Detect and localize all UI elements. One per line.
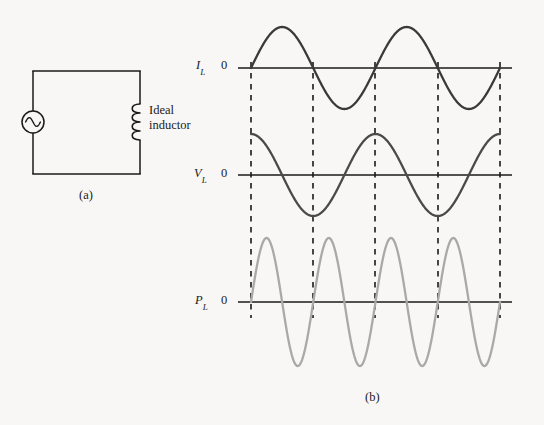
- voltage-symbol: V: [194, 166, 202, 180]
- power-symbol: P: [195, 293, 203, 307]
- inductor-label-line-1: Ideal: [149, 103, 191, 118]
- inductor-label-line-2: inductor: [149, 118, 191, 133]
- current-subscript: L: [200, 67, 205, 77]
- waveform-diagram: [238, 27, 512, 366]
- power-axis-label: PL: [195, 293, 208, 310]
- figure-canvas: [0, 0, 544, 425]
- voltage-zero-label: 0: [221, 166, 227, 181]
- panel-b-caption: (b): [365, 390, 380, 405]
- inductor-label: Ideal inductor: [149, 103, 191, 133]
- power-zero-label: 0: [221, 293, 227, 308]
- current-axis-label: IL: [196, 58, 205, 75]
- current-zero-label: 0: [221, 58, 227, 73]
- figure-root: Ideal inductor (a) (b) IL 0 VL 0 PL 0: [0, 0, 544, 425]
- power-subscript: L: [203, 302, 208, 312]
- panel-a-caption: (a): [79, 188, 93, 203]
- voltage-subscript: L: [202, 175, 207, 185]
- circuit-diagram: [22, 71, 140, 174]
- sine-wave-icon: [26, 118, 41, 127]
- inductor-icon[interactable]: [132, 104, 140, 140]
- voltage-axis-label: VL: [194, 166, 207, 183]
